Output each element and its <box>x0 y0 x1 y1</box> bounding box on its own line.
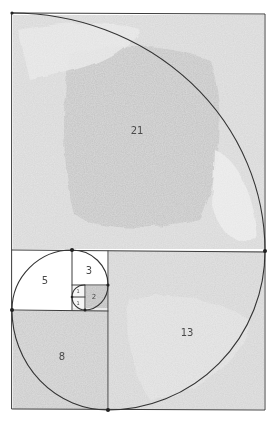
square-label-5: 5 <box>42 275 48 286</box>
square-21-dark-wash <box>64 46 220 228</box>
square-label-1-bottom: 1 <box>76 300 79 306</box>
fibonacci-spiral-drawing <box>0 0 275 423</box>
square-label-2: 2 <box>92 293 96 301</box>
square-label-13: 13 <box>181 327 194 338</box>
square-label-8: 8 <box>59 351 65 362</box>
fibonacci-diagram: 21 13 8 5 3 2 1 1 <box>0 0 275 423</box>
square-label-3: 3 <box>86 265 92 276</box>
square-label-21: 21 <box>131 125 144 136</box>
square-label-1-top: 1 <box>76 288 79 294</box>
